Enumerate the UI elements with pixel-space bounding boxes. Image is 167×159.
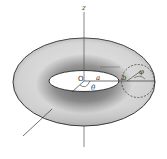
origin-label: O <box>78 75 84 83</box>
major-radius-label: a <box>96 74 100 82</box>
minor-radius-label: b <box>122 74 127 82</box>
phi-label: φ <box>139 68 144 76</box>
z-axis-label: z <box>81 4 86 12</box>
torus-diagram: z O a θ b φ <box>0 0 167 159</box>
